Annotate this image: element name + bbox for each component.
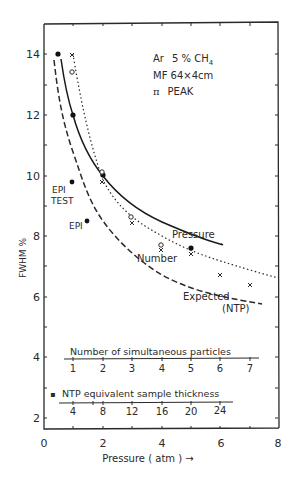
y-axis-label: FWHM %	[18, 238, 28, 278]
pressure-point	[70, 112, 75, 117]
particles-tick-7: 7	[247, 363, 253, 374]
particles-tick-4: 4	[159, 363, 165, 374]
x-tick-0: 0	[41, 437, 48, 450]
number-circle-markers	[70, 70, 163, 247]
epi-point	[85, 219, 90, 224]
expected-curve-label: Expected	[183, 291, 230, 302]
pressure-curve	[61, 59, 223, 245]
thickness-tick-12: 12	[126, 406, 139, 417]
y-tick-4: 4	[33, 351, 40, 364]
y-tick-14: 14	[26, 48, 40, 61]
x-tick-6: 6	[218, 437, 225, 450]
particles-axis-label: Number of simultaneous particles	[70, 346, 231, 357]
pressure-point	[188, 245, 193, 250]
thickness-tick-16: 16	[156, 406, 169, 417]
epi-test-point	[70, 180, 75, 185]
number-x-markers	[70, 53, 252, 287]
x-axis-label: Pressure ( atm ) →	[102, 453, 193, 464]
x-tick-8: 8	[275, 437, 282, 450]
thickness-axis-label: NTP equivalent sample thickness	[62, 388, 219, 399]
thickness-tick-8: 8	[100, 406, 106, 417]
legend-chamber: MF 64×4cm	[153, 70, 213, 81]
epi-test-label-2: TEST	[50, 196, 74, 206]
particles-tick-5: 5	[188, 363, 194, 374]
legend-annotation: Ar5 % CH4 MF 64×4cm πPEAK	[153, 53, 214, 97]
thickness-tick-24: 24	[214, 405, 227, 416]
number-curve-label: Number	[137, 253, 178, 264]
y-tick-10: 10	[26, 170, 40, 183]
expected-ntp-note: (NTP)	[222, 303, 250, 314]
pressure-point	[55, 51, 60, 56]
x-tick-2: 2	[100, 437, 107, 450]
secondary-axis-particles: Number of simultaneous particles 1 2 3 4…	[64, 346, 259, 374]
y-tick-6: 6	[33, 291, 40, 304]
pressure-curve-label: Pressure	[172, 229, 215, 240]
right-ticks	[275, 54, 278, 418]
particles-tick-1: 1	[70, 363, 76, 374]
secondary-axis-thickness: ▪ NTP equivalent sample thickness 4 8 12…	[50, 388, 233, 417]
particles-tick-6: 6	[217, 363, 223, 374]
epi-test-label-1: EPI	[52, 185, 66, 195]
x-tick-labels: 0 2 4 6 8	[41, 437, 282, 450]
fwhm-vs-pressure-chart: 14 12 10 8 6 4 2 0 2 4 6 8 Pressure ( at…	[0, 0, 298, 479]
thickness-bullet: ▪	[50, 390, 55, 399]
y-tick-8: 8	[33, 230, 40, 243]
thickness-tick-4: 4	[70, 406, 76, 417]
y-tick-12: 12	[26, 109, 40, 122]
particles-tick-3: 3	[129, 363, 135, 374]
thickness-tick-20: 20	[185, 406, 198, 417]
particles-tick-2: 2	[100, 363, 106, 374]
legend-peak: πPEAK	[153, 86, 194, 97]
y-tick-labels: 14 12 10 8 6 4 2	[26, 48, 40, 425]
y-tick-2: 2	[33, 412, 40, 425]
epi-label: EPI	[69, 221, 83, 231]
x-tick-4: 4	[159, 437, 166, 450]
legend-gas: Ar5 % CH4	[153, 53, 214, 67]
